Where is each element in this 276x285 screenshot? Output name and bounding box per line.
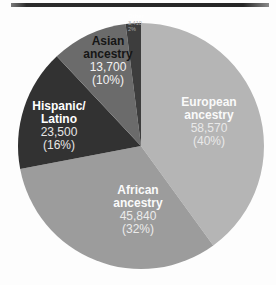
pie-label-asian-ancestry: Asian ancestry 13,700 (10%) — [83, 35, 132, 87]
slice-percent: (10%) — [83, 74, 132, 87]
pie-label-hispanic-latino: Hispanic/ Latino 23,500 (16%) — [32, 100, 85, 152]
slice-percent: 2% — [128, 26, 144, 33]
slice-percent: (16%) — [32, 139, 85, 152]
pie-label-african-ancestry: African ancestry 45,840 (32%) — [113, 184, 162, 236]
pie-label-european-ancestry: European ancestry 58,570 (40%) — [181, 96, 236, 148]
slice-title-line: Other — [128, 13, 144, 20]
pie-label-other: Other 3,410 2% — [128, 13, 144, 33]
slice-percent: (32%) — [113, 223, 162, 236]
slice-percent: (40%) — [181, 135, 236, 148]
figure-pie-chart-ancestry: European ancestry 58,570 (40%) African a… — [0, 0, 276, 285]
